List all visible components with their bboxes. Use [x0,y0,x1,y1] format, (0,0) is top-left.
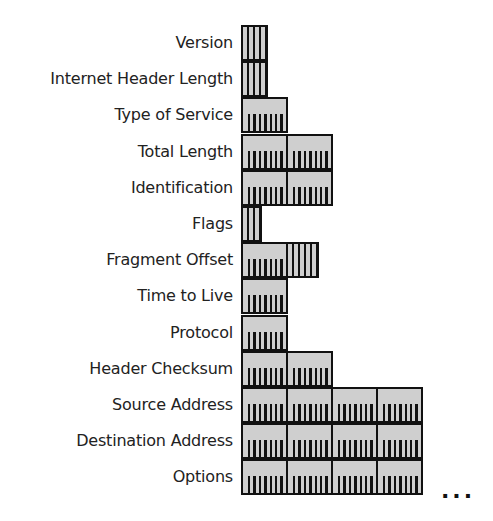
field-cells [241,459,421,495]
field-row: Version [0,25,493,61]
field-cells [241,25,266,61]
field-cells [241,242,317,278]
field-cells [241,97,286,133]
bit-ticks [245,440,284,457]
bit-ticks [290,151,329,168]
bit-ticks [335,476,374,493]
bit-ticks [380,440,419,457]
byte-cell [241,170,288,206]
field-cells [241,61,266,97]
bit-ticks [245,151,284,168]
field-label: Total Length [138,134,233,170]
field-label: Protocol [170,315,233,351]
field-row: Source Address [0,387,493,423]
byte-cell [241,134,288,170]
field-label: Internet Header Length [50,61,233,97]
field-row: Time to Live [0,278,493,314]
bit-cells [241,61,268,97]
field-label: Time to Live [137,278,233,314]
field-row: Type of Service [0,97,493,133]
byte-cell [241,278,288,314]
bit-cells [286,242,319,278]
field-label: Flags [192,206,233,242]
byte-cell [286,351,333,387]
byte-cell [241,423,288,459]
field-label: Version [176,25,233,61]
field-label: Header Checksum [89,351,233,387]
bit-ticks [290,368,329,385]
bit-ticks [290,187,329,204]
bit-ticks [290,440,329,457]
bit-ticks [245,295,284,312]
field-row: Flags [0,206,493,242]
field-label: Destination Address [76,423,233,459]
continuation-ellipsis: ... [441,478,475,503]
field-row: Internet Header Length [0,61,493,97]
field-row: Protocol [0,315,493,351]
field-row: Destination Address [0,423,493,459]
byte-cell [331,387,378,423]
field-cells [241,134,331,170]
field-row: Header Checksum [0,351,493,387]
field-label: Type of Service [115,97,233,133]
bit-ticks [290,404,329,421]
field-cells [241,278,286,314]
field-cells [241,351,331,387]
bit-ticks [245,114,284,131]
byte-cell [241,459,288,495]
field-row: Fragment Offset [0,242,493,278]
field-cells [241,387,421,423]
byte-cell [286,170,333,206]
field-cells [241,315,286,351]
byte-cell [241,97,288,133]
ipv4-header-diagram: VersionInternet Header LengthType of Ser… [0,0,493,521]
bit-ticks [380,476,419,493]
bit-ticks [245,404,284,421]
byte-cell [376,459,423,495]
field-label: Options [173,459,233,495]
byte-cell [376,423,423,459]
byte-cell [241,315,288,351]
bit-ticks [245,259,284,276]
byte-cell [331,459,378,495]
byte-cell [241,242,288,278]
byte-cell [376,387,423,423]
bit-ticks [290,476,329,493]
bit-cells [241,25,268,61]
bit-ticks [245,368,284,385]
field-label: Fragment Offset [106,242,233,278]
field-label: Source Address [112,387,233,423]
byte-cell [241,387,288,423]
bit-ticks [380,404,419,421]
bit-cells [241,206,262,242]
bit-ticks [245,187,284,204]
byte-cell [286,387,333,423]
field-cells [241,206,260,242]
field-label: Identification [131,170,233,206]
field-row: Options [0,459,493,495]
bit-ticks [335,440,374,457]
field-cells [241,423,421,459]
bit-ticks [335,404,374,421]
bit-ticks [245,332,284,349]
byte-cell [286,134,333,170]
byte-cell [286,459,333,495]
byte-cell [241,351,288,387]
field-row: Total Length [0,134,493,170]
byte-cell [331,423,378,459]
field-row: Identification [0,170,493,206]
field-cells [241,170,331,206]
byte-cell [286,423,333,459]
bit-ticks [245,476,284,493]
